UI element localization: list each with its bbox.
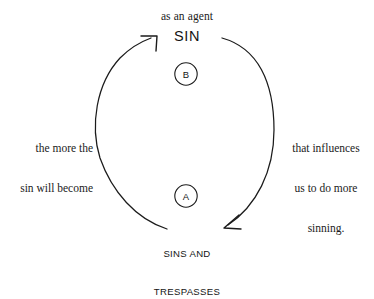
left-arc-caption: the more the sin will become <box>0 116 93 222</box>
right-arc-caption: that influences us to do more sinning. <box>281 116 371 261</box>
left-arc-caption-line2: sin will become <box>0 182 93 195</box>
marker-b-letter: B <box>175 69 197 80</box>
top-caption: as an agent <box>0 10 374 23</box>
left-arc-caption-line1: the more the <box>0 142 93 155</box>
node-label-sins-line2: TRESPASSES <box>0 286 374 299</box>
right-arc-caption-line3: sinning. <box>281 222 371 235</box>
right-arc-path <box>222 38 274 225</box>
right-arc-caption-line2: us to do more <box>281 182 371 195</box>
left-arc-path <box>95 38 167 229</box>
node-label-sin: SIN <box>0 30 374 43</box>
right-arc-caption-line1: that influences <box>281 142 371 155</box>
marker-a-letter: A <box>175 191 197 202</box>
